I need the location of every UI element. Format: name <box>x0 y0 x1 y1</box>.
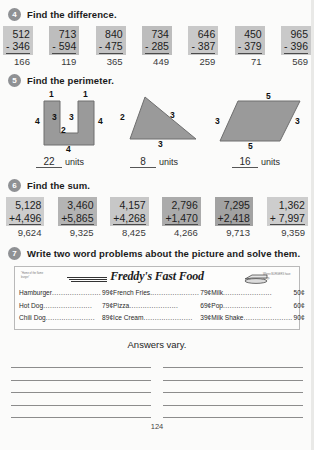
menu-item-row: Ice Cream......................39¢ <box>113 312 211 325</box>
perimeter-answer-value[interactable]: 16 <box>232 156 258 168</box>
exercise4-operand-bottom: - 594 <box>52 40 76 53</box>
menu-item-price: 69¢ <box>199 300 211 313</box>
exercise4-problem-box: 512- 346 <box>3 26 33 55</box>
exercise4-answer[interactable]: 71 <box>235 55 265 67</box>
exercise4-problem-box: 734- 285 <box>142 26 172 55</box>
menu-item-name: French Fries <box>113 287 150 300</box>
answer-writing-lines <box>0 356 314 419</box>
menu-item-price: 60¢ <box>293 300 305 313</box>
perimeter-answer-value[interactable]: 22 <box>36 156 62 168</box>
exercise4-problem-box: 840- 475 <box>96 26 126 55</box>
menu-item-row: Pizza......................69¢ <box>113 300 211 313</box>
triangle-label-left: 2 <box>120 112 125 122</box>
exercise4-operand-top: 965 <box>290 28 308 40</box>
u-shape-label-left-side: 4 <box>35 116 40 126</box>
perimeter-shapes: 1 1 4 4 3 3 2 4 2 3 3 5 5 3 3 <box>0 87 314 159</box>
shape-u-shape: 1 1 4 4 3 3 2 4 <box>34 93 108 151</box>
menu-header: "Home of the flame burger" Where BURGERS… <box>19 270 295 287</box>
answer-line[interactable] <box>11 393 151 406</box>
exercise4-answer[interactable]: 569 <box>281 55 311 67</box>
menu-columns: Hamburger......................99¢Hot Do… <box>19 287 295 325</box>
exercise6-operand-bottom: + 7,997 <box>270 212 305 225</box>
exercise6-answer[interactable]: 9,713 <box>215 226 253 238</box>
shape-triangle: 2 3 3 <box>118 91 204 151</box>
exercise4-operand-bottom: - 387 <box>191 40 215 53</box>
menu-column: Hamburger......................99¢Hot Do… <box>19 287 113 325</box>
menu-item-row: Milk......................50¢ <box>211 287 304 300</box>
exercise6-problem: 5,128+4,4969,624 <box>6 197 44 238</box>
exercise6-problem-box: 1,362+ 7,997 <box>267 197 308 226</box>
exercise-5-header: 5 Find the perimeter. <box>0 67 314 87</box>
exercise-7-header: 7 Write two word problems about the pict… <box>0 238 314 260</box>
exercise6-operand-bottom: +4,496 <box>9 212 41 225</box>
answer-line[interactable] <box>163 368 303 381</box>
exercise6-problem: 7,295+2,4189,713 <box>215 197 253 238</box>
exercise4-answer[interactable]: 259 <box>188 55 218 67</box>
exercise4-problem: 965- 396569 <box>281 26 311 67</box>
menu-item-price: 39¢ <box>199 312 211 325</box>
exercise4-problem-box: 713- 594 <box>49 26 79 55</box>
page-number: 124 <box>0 422 314 431</box>
menu-brand-name: Freddy's Fast Food <box>110 269 204 284</box>
exercise-4-number: 4 <box>8 8 21 21</box>
u-shape-label-top-right: 1 <box>83 89 88 99</box>
answer-line[interactable] <box>163 393 303 406</box>
exercise6-answer[interactable]: 4,266 <box>162 226 200 238</box>
exercise4-problem: 512- 346166 <box>3 26 33 67</box>
exercise4-problem-box: 646- 387 <box>188 26 218 55</box>
menu-item-row: Chili Dog......................89¢ <box>19 312 113 325</box>
exercise4-operand-bottom: - 285 <box>145 40 169 53</box>
freddys-menu-card: "Home of the flame burger" Where BURGERS… <box>14 266 300 330</box>
exercise4-problem: 450- 37971 <box>235 26 265 67</box>
menu-item-row: Hot Dog......................79¢ <box>19 300 113 313</box>
u-shape-label-notch-left: 3 <box>52 112 57 122</box>
answer-line[interactable] <box>11 381 151 394</box>
perimeter-answer-u-shape: 22units <box>36 156 84 168</box>
answer-line[interactable] <box>11 406 151 419</box>
exercise6-answer[interactable]: 8,425 <box>110 226 148 238</box>
menu-dot-leader: ...................... <box>129 300 199 313</box>
menu-dot-leader: ...................... <box>244 312 293 325</box>
exercise-7-number: 7 <box>8 247 21 260</box>
exercise6-operand-bottom: +2,418 <box>218 212 250 225</box>
exercise6-operand-top: 5,128 <box>15 199 41 211</box>
exercise4-answer[interactable]: 365 <box>96 55 126 67</box>
menu-item-row: Milk Shake......................90¢ <box>211 312 304 325</box>
exercise6-answer[interactable]: 9,624 <box>6 226 44 238</box>
exercise4-answer[interactable]: 166 <box>3 55 33 67</box>
menu-item-price: 50¢ <box>293 287 305 300</box>
menu-item-row: French Fries......................79¢ <box>113 287 211 300</box>
menu-item-price: 79¢ <box>199 287 211 300</box>
menu-item-row: Pop......................60¢ <box>211 300 304 313</box>
menu-item-name: Hot Dog <box>19 300 43 313</box>
answer-lines-left-column[interactable] <box>11 356 151 419</box>
exercise4-operand-top: 840 <box>105 28 123 40</box>
answer-line[interactable] <box>11 356 151 369</box>
menu-dot-leader: ...................... <box>46 312 101 325</box>
perimeter-answer-value[interactable]: 8 <box>130 156 156 168</box>
u-shape-label-notch-base: 2 <box>61 125 66 135</box>
answer-line[interactable] <box>163 356 303 369</box>
exercise6-operand-top: 1,362 <box>279 199 305 211</box>
exercise6-problem: 1,362+ 7,9979,359 <box>267 197 308 238</box>
exercise4-answer[interactable]: 449 <box>142 55 172 67</box>
exercise6-operand-bottom: +4,268 <box>113 212 145 225</box>
answer-lines-right-column[interactable] <box>163 356 303 419</box>
answer-line[interactable] <box>11 368 151 381</box>
exercise6-problem: 2,796+1,4704,266 <box>162 197 200 238</box>
exercise-6-header: 6 Find the sum. <box>0 171 314 192</box>
exercise6-operand-top: 4,157 <box>119 199 145 211</box>
menu-dot-leader: ...................... <box>144 312 200 325</box>
exercise6-operand-bottom: +5,865 <box>61 212 93 225</box>
exercise6-answer[interactable]: 9,359 <box>267 226 308 238</box>
answer-line[interactable] <box>163 381 303 394</box>
exercise6-operand-top: 7,295 <box>224 199 250 211</box>
answer-line[interactable] <box>163 406 303 419</box>
u-shape-label-bottom: 4 <box>66 144 71 154</box>
exercise6-problem-box: 7,295+2,418 <box>215 197 253 226</box>
exercise6-answer[interactable]: 9,325 <box>58 226 96 238</box>
menu-dot-leader: ...................... <box>150 287 199 300</box>
exercise4-problem: 646- 387259 <box>188 26 218 67</box>
exercise-7-title: Write two word problems about the pictur… <box>27 248 300 259</box>
exercise4-answer[interactable]: 119 <box>49 55 79 67</box>
